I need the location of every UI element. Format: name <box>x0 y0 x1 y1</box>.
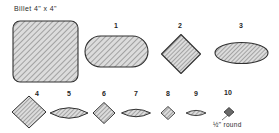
pass-8-diamond <box>161 107 175 120</box>
pass-sequence-diagram <box>0 0 279 133</box>
billet-square <box>13 21 78 82</box>
billet-label: Billet 4" x 4" <box>14 5 57 13</box>
pass-2-diamond <box>162 35 201 74</box>
pass-7-oval <box>122 109 151 117</box>
pass-6-diamond <box>93 103 115 124</box>
pass-4-diamond <box>12 96 46 128</box>
pass-4-number: 4 <box>35 90 39 98</box>
pass-6-number: 6 <box>102 90 106 98</box>
pass-3-number: 3 <box>239 22 243 30</box>
pass-10-number: 10 <box>224 89 232 97</box>
pass-1-number: 1 <box>114 22 118 30</box>
pass-7-number: 7 <box>134 90 138 98</box>
final-size-caption: ½" round <box>213 121 242 129</box>
pass-5-oval <box>50 108 88 119</box>
pass-8-number: 8 <box>166 90 170 98</box>
pass-9-number: 9 <box>194 90 198 98</box>
pass-9-oval <box>186 110 206 115</box>
pass-5-number: 5 <box>67 90 71 98</box>
rolling-pass-sequence-figure: Billet 4" x 4" 1 2 3 4 5 6 7 8 9 10 ½" r… <box>0 0 279 133</box>
pass-1-oval <box>85 36 148 67</box>
pass-10-diamond <box>224 108 234 117</box>
caption-leader-line <box>222 115 228 120</box>
pass-2-number: 2 <box>178 22 182 30</box>
pass-3-oval <box>215 43 268 64</box>
